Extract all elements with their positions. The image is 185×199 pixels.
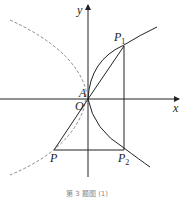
point-P-label: P (49, 151, 58, 165)
segment-O-P1 (88, 46, 124, 99)
y-axis-label: y (76, 3, 83, 17)
point-P1-label: P1 (113, 30, 125, 46)
origin-label: O (75, 99, 84, 113)
dashed-parabola (10, 20, 86, 175)
point-A-label: A (78, 86, 87, 100)
figure-caption: 第 3 题图 (1) (66, 189, 108, 198)
diagram: y x O A P1 P2 P 第 3 题图 (1) (0, 0, 185, 199)
point-P2-label: P2 (117, 151, 129, 167)
x-axis-label: x (172, 101, 179, 115)
